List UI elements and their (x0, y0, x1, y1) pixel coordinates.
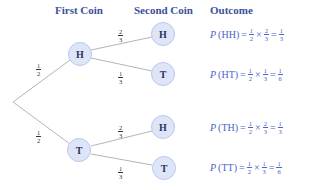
node-second-tt: T (152, 156, 176, 180)
prob-label-t-h: 23 (118, 124, 123, 139)
node-second-th: H (151, 115, 175, 139)
node-second-hh: H (151, 22, 175, 46)
header-second-coin: Second Coin (134, 4, 193, 16)
edge-root-h (13, 60, 70, 102)
outcome-hh: P(HH) = 12 × 23 = 13 (210, 27, 284, 42)
edge-t-t (91, 154, 152, 165)
node-second-ht: T (151, 62, 175, 86)
prob-label-root-h: 12 (36, 62, 41, 77)
node-first-t: T (67, 138, 91, 162)
outcome-tt: P(TT) = 12 × 13 = 16 (210, 160, 282, 175)
prob-label-h-t: 13 (118, 70, 123, 85)
edge-root-t (13, 102, 70, 144)
node-first-h: H (68, 42, 92, 66)
prob-label-h-h: 23 (118, 28, 123, 43)
prob-label-root-t: 12 (36, 129, 41, 144)
outcome-ht: P(HT) = 12 × 13 = 16 (210, 67, 283, 82)
outcome-th: P(TH) = 12 × 23 = 13 (210, 120, 283, 135)
header-outcome: Outcome (210, 4, 253, 16)
header-first-coin: First Coin (55, 4, 103, 16)
prob-label-t-t: 13 (118, 165, 123, 180)
